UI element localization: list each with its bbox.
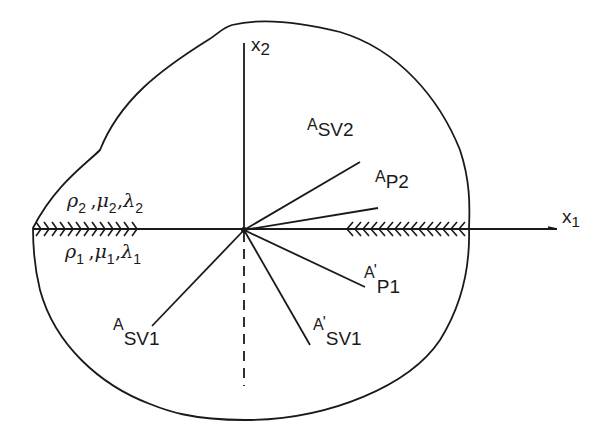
ray-a-sv1-prime — [244, 230, 310, 345]
x2-axis-label: x2 — [251, 35, 270, 54]
label-a-p2: AP2 — [375, 172, 409, 191]
lower-medium-properties: ρ1 ,μ1 ,λ1 — [65, 242, 141, 261]
body-outline — [33, 21, 469, 420]
upper-medium-properties: ρ2 ,μ2 ,λ2 — [67, 191, 143, 210]
diagram-canvas: x2 x1 ρ2 ,μ2 ,λ2 ρ1 ,μ1 ,λ1 ASV2 AP2 A'P… — [0, 0, 602, 433]
ray-a-p1-prime — [244, 230, 365, 287]
label-a-sv1-prime: A'SV1 — [313, 320, 362, 339]
label-a-sv2: ASV2 — [307, 120, 354, 139]
ray-a-sv1 — [152, 230, 244, 326]
x1-axis-label: x1 — [562, 207, 580, 226]
label-a-p1-prime: A'P1 — [364, 268, 400, 287]
label-a-sv1: ASV1 — [113, 320, 160, 339]
diagram-drawing — [0, 0, 602, 433]
